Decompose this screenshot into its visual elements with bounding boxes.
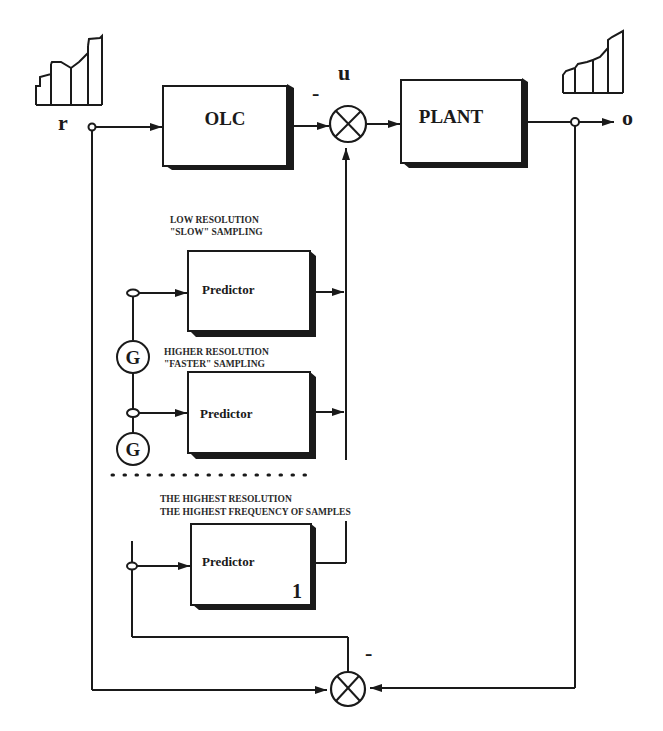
reference-junction — [89, 124, 96, 131]
low-resolution-note-line1: LOW RESOLUTION — [170, 215, 259, 225]
predictor-low-label: Predictor — [202, 282, 255, 297]
bottom-summer-minus-sign: - — [365, 640, 372, 665]
predictor-higher-block: Predictor — [188, 372, 316, 459]
predictor-higher-input-junction — [127, 409, 139, 417]
plant-label: PLANT — [419, 106, 484, 127]
predictor-low-input-junction — [127, 290, 139, 297]
plant-block: PLANT — [401, 78, 528, 168]
bottom-summing-junction-icon — [331, 672, 365, 706]
output-signal-label: o — [622, 105, 633, 130]
predictor-highest-block: Predictor 1 — [191, 524, 316, 610]
top-summing-junction-icon — [330, 106, 366, 142]
olc-label: OLC — [204, 108, 245, 129]
control-signal-label: u — [338, 60, 350, 85]
olc-block: OLC — [163, 84, 294, 170]
low-resolution-note-line2: "SLOW" SAMPLING — [170, 227, 263, 237]
reference-signal-label: r — [58, 110, 68, 135]
output-junction — [571, 118, 579, 126]
predictor-highest-label: Predictor — [202, 554, 255, 569]
reference-waveform-icon — [36, 36, 102, 105]
generator-g2-icon: G — [117, 433, 149, 465]
top-summer-minus-sign: - — [312, 80, 319, 105]
output-waveform-icon — [563, 31, 623, 93]
higher-resolution-note-line1: HIGHER RESOLUTION — [164, 347, 269, 357]
generator-g1-icon: G — [117, 341, 149, 373]
predictor-highest-index: 1 — [292, 580, 302, 602]
predictor-higher-label: Predictor — [200, 406, 253, 421]
svg-text:G: G — [126, 347, 141, 368]
higher-resolution-note-line2: "FASTER" SAMPLING — [164, 359, 266, 369]
predictor-highest-input-junction — [127, 563, 137, 570]
control-diagram: r o OLC - u PLANT LOW RESOLUTION "SLOW" … — [0, 0, 663, 731]
highest-resolution-note-line1: THE HIGHEST RESOLUTION — [160, 494, 292, 504]
svg-text:G: G — [126, 439, 141, 460]
highest-resolution-note-line2: THE HIGHEST FREQUENCY OF SAMPLES — [160, 507, 351, 517]
predictor-low-block: Predictor — [188, 251, 316, 337]
